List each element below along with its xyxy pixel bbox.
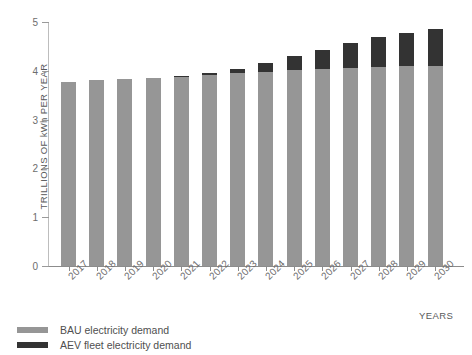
bar-stack — [371, 37, 386, 266]
bar-stack — [89, 80, 104, 266]
bar-segment-bau — [428, 66, 443, 266]
bar-stack — [343, 43, 358, 266]
x-axis-title: YEARS — [419, 310, 453, 321]
bar-segment-aev — [343, 43, 358, 68]
y-tick-label: 1 — [18, 217, 38, 218]
bar-segment-aev — [399, 33, 414, 67]
bar-segment-bau — [202, 75, 217, 266]
bar-stack — [287, 56, 302, 266]
chart-legend: BAU electricity demandAEV fleet electric… — [17, 322, 191, 352]
legend-item: AEV fleet electricity demand — [17, 337, 191, 352]
y-tick-label: 4 — [18, 71, 38, 72]
bar-chart: TRILLIONS OF kWh PER YEAR 012345 2017201… — [0, 0, 472, 355]
bar-segment-bau — [146, 78, 161, 266]
plot-area: 012345 201720182019202020212022202320242… — [48, 22, 464, 266]
bar-segment-bau — [230, 73, 245, 266]
y-tick — [42, 168, 49, 169]
bar-stack — [174, 76, 189, 266]
bar-segment-bau — [287, 70, 302, 266]
y-tick-label: 3 — [18, 120, 38, 121]
bar-segment-bau — [399, 66, 414, 266]
y-axis-title: TRILLIONS OF kWh PER YEAR — [38, 17, 49, 257]
bar-segment-aev — [428, 29, 443, 66]
y-tick — [42, 71, 49, 72]
bar-stack — [117, 79, 132, 266]
bar-segment-bau — [371, 67, 386, 266]
bar-segment-bau — [174, 77, 189, 266]
bar-segment-aev — [315, 50, 330, 70]
y-tick-label: 0 — [18, 266, 38, 267]
bar-segment-aev — [287, 56, 302, 70]
bar-stack — [230, 69, 245, 266]
bar-segment-bau — [258, 72, 273, 266]
y-tick — [42, 22, 49, 23]
legend-item: BAU electricity demand — [17, 322, 191, 337]
bar-stack — [61, 82, 76, 266]
bar-segment-bau — [343, 68, 358, 266]
bar-segment-bau — [117, 79, 132, 266]
bar-segment-bau — [61, 82, 76, 266]
y-tick — [42, 120, 49, 121]
legend-label: BAU electricity demand — [60, 324, 169, 336]
bar-stack — [258, 63, 273, 266]
bar-stack — [146, 78, 161, 266]
bar-segment-bau — [89, 80, 104, 266]
bar-segment-aev — [371, 37, 386, 67]
legend-label: AEV fleet electricity demand — [60, 339, 191, 351]
bar-segment-bau — [315, 69, 330, 266]
y-axis-line — [48, 22, 49, 267]
bar-stack — [202, 73, 217, 266]
y-tick — [42, 266, 49, 267]
bar-stack — [399, 33, 414, 266]
legend-swatch — [17, 327, 48, 333]
bar-segment-aev — [258, 63, 273, 72]
y-tick-label: 5 — [18, 22, 38, 23]
y-tick — [42, 217, 49, 218]
y-tick-label: 2 — [18, 168, 38, 169]
legend-swatch — [17, 342, 48, 348]
bar-stack — [428, 29, 443, 266]
bar-stack — [315, 50, 330, 266]
